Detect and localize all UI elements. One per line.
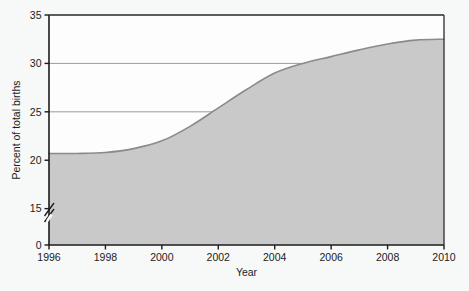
x-tick-label-2006: 2006 bbox=[319, 251, 343, 263]
x-tick-label-2002: 2002 bbox=[207, 251, 231, 263]
y-tick-label-20: 20 bbox=[30, 154, 42, 166]
chart-container: 01520253035 1996199820002002200420062008… bbox=[0, 0, 469, 291]
x-tick-label-2004: 2004 bbox=[263, 251, 287, 263]
x-tick-label-2010: 2010 bbox=[432, 251, 456, 263]
y-tick-label-30: 30 bbox=[30, 57, 42, 69]
x-tick-label-1996: 1996 bbox=[37, 251, 61, 263]
y-axis-title: Percent of total births bbox=[10, 80, 22, 179]
y-tick-label-25: 25 bbox=[30, 106, 42, 118]
x-axis-title: Year bbox=[236, 266, 258, 278]
x-tick-label-2000: 2000 bbox=[150, 251, 174, 263]
y-tick-label-35: 35 bbox=[30, 9, 42, 21]
area-chart: 01520253035 1996199820002002200420062008… bbox=[0, 0, 469, 291]
y-tick-label-0: 0 bbox=[36, 239, 42, 251]
x-tick-label-2008: 2008 bbox=[376, 251, 400, 263]
x-tick-label-1998: 1998 bbox=[94, 251, 118, 263]
y-tick-label-15: 15 bbox=[30, 202, 42, 214]
